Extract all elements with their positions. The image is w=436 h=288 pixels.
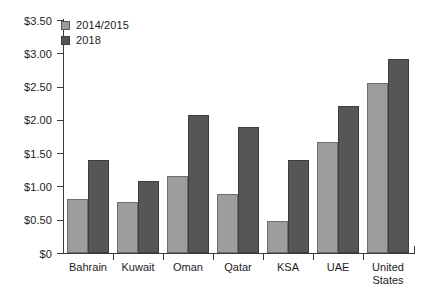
bar-group	[317, 20, 359, 253]
chart-legend: 2014/2015 2018	[61, 19, 129, 46]
bar	[338, 106, 359, 253]
bar-group	[367, 20, 409, 253]
x-axis-end-tick	[414, 246, 415, 254]
x-axis-category-label: United States	[363, 261, 413, 286]
bar	[138, 181, 159, 253]
x-axis-category-label: KSA	[263, 261, 313, 274]
legend-item-series-0: 2014/2015	[61, 19, 129, 31]
bar-group	[67, 20, 109, 253]
legend-item-series-1: 2018	[61, 34, 129, 46]
y-axis-tick-label: $3.00	[24, 48, 52, 60]
bar	[117, 202, 138, 253]
y-axis-tick: $0	[57, 253, 63, 254]
x-axis-tick	[263, 253, 264, 260]
legend-label-series-0: 2014/2015	[76, 19, 129, 31]
x-axis-category-label: Oman	[163, 261, 213, 274]
bar-group	[167, 20, 209, 253]
bar	[188, 115, 209, 253]
legend-label-series-1: 2018	[76, 34, 101, 46]
x-axis-tick	[163, 253, 164, 260]
bar	[167, 176, 188, 253]
x-axis-category-label: Kuwait	[113, 261, 163, 274]
legend-swatch-icon-2014-2015	[61, 21, 70, 30]
x-axis-category-label: Bahrain	[63, 261, 113, 274]
x-axis-tick	[213, 253, 214, 260]
legend-swatch-icon-2018	[61, 36, 70, 45]
bar	[388, 59, 409, 253]
bar	[367, 83, 388, 253]
bar	[67, 199, 88, 253]
bar	[317, 142, 338, 253]
bar-chart: $0$0.50$1.00$1.50$2.00$2.50$3.00$3.50 Ba…	[0, 0, 436, 288]
y-axis-tick-label: $2.00	[24, 114, 52, 126]
bar-group	[267, 20, 309, 253]
y-axis-tick-label: $0.50	[24, 214, 52, 226]
bar	[267, 221, 288, 253]
y-axis-tick-label: $2.50	[24, 81, 52, 93]
y-axis-tick-label: $1.50	[24, 148, 52, 160]
x-axis-tick	[113, 253, 114, 260]
bar	[217, 194, 238, 253]
bar-group	[217, 20, 259, 253]
x-axis-tick	[313, 253, 314, 260]
y-axis-tick-label: $1.00	[24, 181, 52, 193]
bar	[238, 127, 259, 253]
x-axis-category-label: Qatar	[213, 261, 263, 274]
x-axis-category-label: UAE	[313, 261, 363, 274]
plot-area	[63, 20, 413, 253]
bar	[88, 160, 109, 253]
y-axis-tick-label: $3.50	[24, 15, 52, 27]
x-axis-tick	[363, 253, 364, 260]
y-axis-tick-label: $0	[40, 248, 52, 260]
bar-group	[117, 20, 159, 253]
bar	[288, 160, 309, 253]
